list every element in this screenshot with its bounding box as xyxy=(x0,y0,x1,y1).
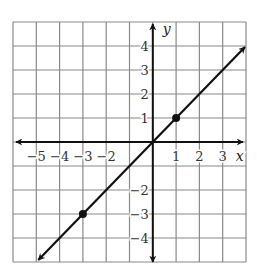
x-tick-label: −2 xyxy=(97,149,116,164)
y-axis-label: y xyxy=(162,21,172,37)
coordinate-plane: −5−4−3−21234321−2−3−4xy xyxy=(0,0,257,269)
y-tick-label: 4 xyxy=(141,39,149,54)
x-tick-label: −5 xyxy=(27,149,46,164)
line-y-equals-x xyxy=(38,47,245,260)
data-point xyxy=(79,210,87,218)
y-tick-label: 2 xyxy=(141,87,149,102)
x-tick-label: −3 xyxy=(73,149,92,164)
x-axis-label: x xyxy=(236,148,244,164)
x-tick-label: 3 xyxy=(219,149,227,164)
series xyxy=(38,47,245,260)
y-tick-label: −4 xyxy=(130,231,149,246)
y-tick-label: 1 xyxy=(141,111,149,126)
x-tick-label: 2 xyxy=(195,149,203,164)
data-point xyxy=(172,114,180,122)
y-tick-label: −2 xyxy=(130,183,149,198)
x-tick-label: −4 xyxy=(50,149,69,164)
x-tick-label: 1 xyxy=(172,149,180,164)
y-tick-label: 3 xyxy=(141,63,149,78)
y-tick-label: −3 xyxy=(130,207,149,222)
